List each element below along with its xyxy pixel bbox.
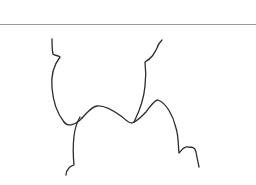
line-drawing-canvas bbox=[0, 0, 256, 185]
background bbox=[0, 0, 256, 185]
